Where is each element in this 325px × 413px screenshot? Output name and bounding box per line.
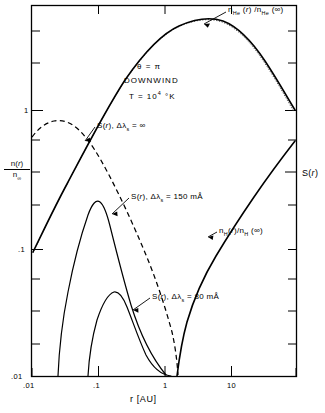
y-axis-title-denominator: n∞ — [4, 171, 30, 181]
leader-lines — [85, 12, 226, 313]
curve-helium-solid — [33, 19, 295, 252]
curve-label-s-80: S(r), Δλs = 80 mÅ — [152, 292, 219, 303]
y-axis-title-numerator: n(r) — [4, 160, 30, 168]
x-tick-0p1: .1 — [93, 381, 100, 390]
y-axis-title: n(r) n∞ — [4, 160, 30, 182]
x-axis-ticks — [32, 366, 296, 377]
figure-panel: nHe (r) /nHe (∞) nH(r)/nH (∞) S(r), Δλs … — [0, 0, 325, 413]
x-tick-1: 1 — [163, 381, 168, 390]
y-tick-0p1: .1 — [18, 245, 25, 254]
y-tick-1: 1 — [24, 106, 29, 115]
curve-label-hydrogen: nH(r)/nH (∞) — [219, 226, 263, 237]
y-axis-ticks-left — [32, 31, 44, 377]
y-axis-ticks-right — [285, 31, 297, 344]
curve-s-80 — [88, 292, 171, 376]
curve-helium-dotted — [33, 20, 294, 253]
curve-s-150 — [58, 201, 166, 376]
curve-label-helium: nHe (r) /nHe (∞) — [228, 5, 284, 16]
x-tick-0p01: .01 — [23, 381, 35, 390]
curve-s-infinity — [32, 120, 178, 375]
annotation-direction: DOWNWIND — [124, 76, 179, 85]
x-axis-title: r [AU] — [130, 394, 157, 404]
x-tick-10: 10 — [227, 381, 236, 390]
plot-canvas — [0, 0, 325, 413]
y-tick-0p01: .01 — [11, 372, 23, 381]
y-axis-title-rule — [4, 169, 30, 170]
x-axis-ticks-top — [99, 6, 232, 15]
curve-label-s-infinity: S(r), Δλs = ∞ — [97, 121, 146, 132]
axis-frame — [32, 6, 297, 377]
annotation-temperature: T = 104 °K — [129, 90, 176, 101]
curve-hydrogen — [177, 141, 295, 376]
curve-label-s-150: S(r), Δλs = 150 mÅ — [131, 192, 203, 203]
y-axis-title-right: S(r) — [302, 168, 318, 178]
annotation-theta: θ = π — [137, 62, 161, 71]
